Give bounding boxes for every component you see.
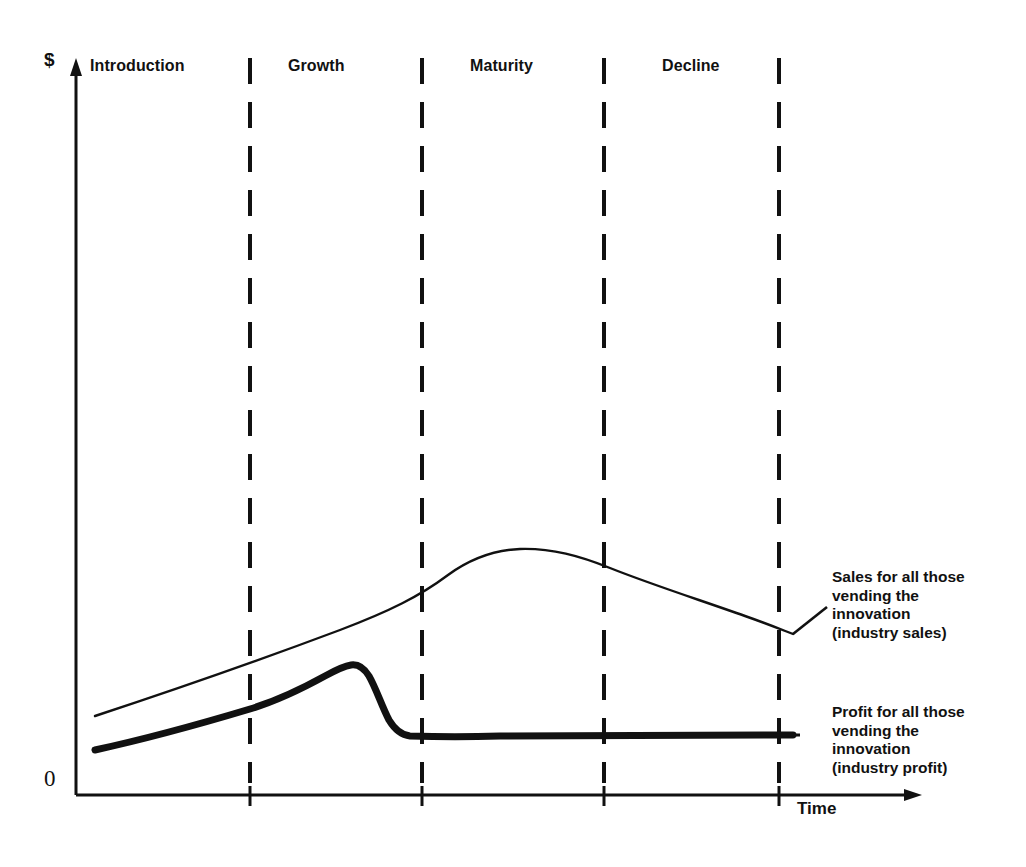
annotation-industry-profit-line-1: Profit for all those: [832, 703, 965, 722]
y-axis-label-dollar: $: [44, 49, 55, 71]
x-axis: [76, 789, 922, 801]
stage-label-introduction: Introduction: [90, 57, 185, 75]
series-line-industry-profit: [95, 665, 793, 750]
annotation-industry-sales-line-2: vending the: [832, 587, 965, 606]
annotation-industry-profit-line-2: vending the: [832, 722, 965, 741]
annotation-industry-profit: Profit for all those vending the innovat…: [832, 703, 965, 777]
annotation-industry-sales: Sales for all those vending the innovati…: [832, 568, 965, 642]
y-axis: [70, 58, 82, 795]
annotation-industry-sales-line-4: (industry sales): [832, 624, 965, 643]
stage-label-decline: Decline: [662, 57, 720, 75]
annotation-industry-sales-line-3: innovation: [832, 605, 965, 624]
chart-page: Introduction Growth Maturity Decline $ 0…: [0, 0, 1026, 867]
y-axis-origin-label: 0: [44, 766, 56, 792]
x-axis-label-time: Time: [797, 799, 836, 819]
stage-label-maturity: Maturity: [470, 57, 533, 75]
annotation-industry-profit-line-3: innovation: [832, 740, 965, 759]
annotation-industry-sales-line-1: Sales for all those: [832, 568, 965, 587]
sales-annotation-leader: [793, 607, 827, 634]
annotation-industry-profit-line-4: (industry profit): [832, 759, 965, 778]
stage-label-growth: Growth: [288, 57, 345, 75]
series-line-industry-sales: [95, 549, 793, 716]
